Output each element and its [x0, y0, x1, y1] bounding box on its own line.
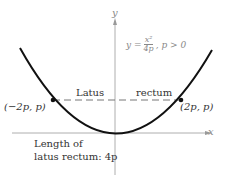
note-line-1: Length of: [34, 139, 83, 149]
equation-condition: , p > 0: [156, 40, 186, 50]
left-point-label: (−2p, p): [4, 102, 46, 112]
equation-lhs: y =: [126, 40, 142, 50]
equation-denominator: 4p: [144, 45, 154, 53]
y-axis-arrow-icon: [113, 18, 117, 25]
x-axis-label: x: [208, 127, 214, 137]
equation-fraction: x² 4p: [144, 36, 154, 53]
y-axis-label: y: [112, 8, 118, 18]
left-endpoint: [51, 98, 56, 103]
latus-label: Latus: [76, 88, 104, 98]
rectum-label: rectum: [136, 88, 172, 98]
equation: y = x² 4p , p > 0: [126, 36, 186, 53]
right-point-label: (2p, p): [180, 102, 213, 112]
note-line-2: latus rectum: 4p: [34, 152, 117, 162]
parabola-curve: [20, 48, 212, 134]
